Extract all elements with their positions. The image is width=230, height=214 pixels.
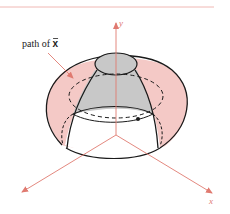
point-x (136, 117, 140, 121)
y-axis-label: y (118, 18, 123, 28)
annotation-pointer (48, 53, 73, 78)
annotation-vector: x (53, 38, 59, 49)
annotation-text: path of x (22, 38, 59, 49)
annotation-label: path of (22, 38, 53, 49)
torus-diagram: y x path of x (0, 0, 230, 214)
x-axis-label: x (208, 196, 213, 206)
lower-cavity (65, 106, 160, 154)
